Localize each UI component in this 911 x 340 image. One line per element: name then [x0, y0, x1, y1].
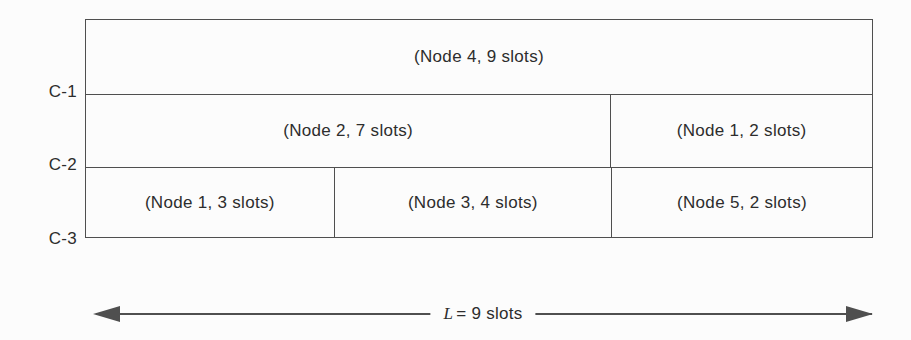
allocation-cell-node3: (Node 3, 4 slots)	[334, 168, 611, 237]
allocation-cell-node1-c3: (Node 1, 3 slots)	[86, 168, 334, 237]
allocation-label: (Node 5, 2 slots)	[677, 193, 807, 213]
figure-canvas: (Node 4, 9 slots) (Node 2, 7 slots) (Nod…	[0, 0, 911, 340]
allocation-cell-node2: (Node 2, 7 slots)	[86, 95, 610, 167]
allocation-label: (Node 4, 9 slots)	[414, 47, 544, 67]
channel-row-c3: (Node 1, 3 slots) (Node 3, 4 slots) (Nod…	[86, 167, 872, 237]
channel-row-c2: (Node 2, 7 slots) (Node 1, 2 slots)	[86, 94, 872, 167]
channel-label-c1: C-1	[18, 82, 77, 102]
allocation-cell-node4: (Node 4, 9 slots)	[86, 20, 872, 94]
allocation-label: (Node 1, 3 slots)	[145, 193, 275, 213]
channel-label-c2: C-2	[18, 155, 77, 175]
slot-allocation-grid: (Node 4, 9 slots) (Node 2, 7 slots) (Nod…	[85, 19, 873, 238]
allocation-label: (Node 2, 7 slots)	[283, 121, 413, 141]
channel-label-c3: C-3	[18, 229, 77, 249]
length-value: = 9 slots	[456, 304, 522, 323]
arrow-left-head-icon	[93, 306, 120, 322]
allocation-cell-node1-c2: (Node 1, 2 slots)	[610, 95, 872, 167]
length-variable: L	[443, 304, 453, 323]
allocation-cell-node5: (Node 5, 2 slots)	[611, 168, 872, 237]
length-label: L= 9 slots	[430, 302, 535, 326]
arrow-right-head-icon	[846, 306, 873, 322]
channel-row-c1: (Node 4, 9 slots)	[86, 20, 872, 94]
allocation-label: (Node 1, 2 slots)	[677, 121, 807, 141]
allocation-label: (Node 3, 4 slots)	[408, 193, 538, 213]
